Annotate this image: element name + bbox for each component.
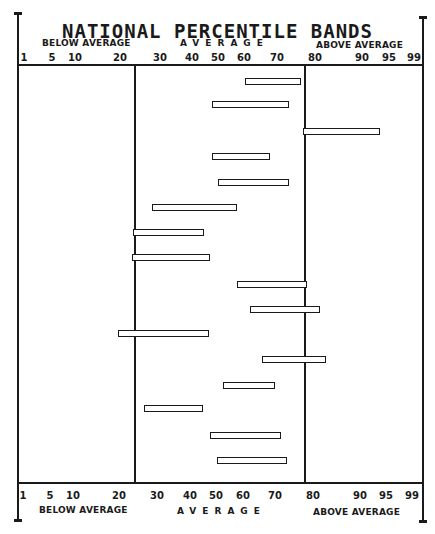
percentile-band-6 xyxy=(152,204,237,211)
tick-label: 5 xyxy=(49,52,56,63)
header-above-average-label: ABOVE AVERAGE xyxy=(316,40,403,50)
footer-above-average-label: ABOVE AVERAGE xyxy=(313,507,400,517)
tick-label: 80 xyxy=(308,52,322,63)
tick-label: 70 xyxy=(270,52,284,63)
tick-label: 99 xyxy=(407,52,421,63)
percentile-band-15 xyxy=(210,432,281,439)
tick-label: 20 xyxy=(112,490,126,501)
tick-label: 10 xyxy=(66,490,80,501)
header-average-label: AVERAGE xyxy=(180,38,269,48)
percentile-band-9 xyxy=(237,281,307,288)
tick-label: 20 xyxy=(113,52,127,63)
percentile-band-5 xyxy=(218,179,289,186)
right-border xyxy=(422,17,424,522)
percentile-band-10 xyxy=(250,306,320,313)
percentile-band-12 xyxy=(262,356,326,363)
percentile-band-2 xyxy=(212,101,289,108)
tick-label: 30 xyxy=(153,52,167,63)
below-average-boundary xyxy=(134,64,136,483)
footer-below-average-label: BELOW AVERAGE xyxy=(39,505,128,515)
tick-label: 40 xyxy=(183,490,197,501)
percentile-band-3 xyxy=(303,128,380,135)
tick-label: 5 xyxy=(47,490,54,501)
tick-label: 70 xyxy=(268,490,282,501)
percentile-band-11 xyxy=(118,330,209,337)
left-border-top-cap xyxy=(14,12,22,15)
left-border-bottom-cap xyxy=(14,519,22,522)
tick-label: 90 xyxy=(353,490,367,501)
percentile-band-1 xyxy=(245,78,301,85)
tick-label: 95 xyxy=(382,52,396,63)
tick-label: 80 xyxy=(306,490,320,501)
tick-label: 1 xyxy=(20,490,27,501)
right-border-bottom-cap xyxy=(419,520,427,523)
bottom-axis-line xyxy=(18,482,423,484)
tick-label: 50 xyxy=(209,490,223,501)
tick-label: 10 xyxy=(68,52,82,63)
percentile-band-8 xyxy=(132,254,210,261)
tick-label: 50 xyxy=(211,52,225,63)
tick-label: 1 xyxy=(21,52,28,63)
tick-label: 30 xyxy=(150,490,164,501)
right-border-top-cap xyxy=(419,16,427,19)
percentile-band-7 xyxy=(133,229,204,236)
percentile-band-13 xyxy=(223,382,275,389)
percentile-band-4 xyxy=(212,153,270,160)
left-border xyxy=(17,13,19,521)
tick-label: 40 xyxy=(185,52,199,63)
tick-label: 90 xyxy=(355,52,369,63)
tick-label: 60 xyxy=(236,490,250,501)
percentile-band-14 xyxy=(144,405,203,412)
tick-label: 99 xyxy=(405,490,419,501)
tick-label: 95 xyxy=(379,490,393,501)
top-axis-line xyxy=(18,64,423,66)
header-below-average-label: BELOW AVERAGE xyxy=(42,38,131,48)
footer-average-label: AVERAGE xyxy=(177,506,266,516)
percentile-band-16 xyxy=(217,457,287,464)
tick-label: 60 xyxy=(237,52,251,63)
above-average-boundary xyxy=(304,64,306,483)
